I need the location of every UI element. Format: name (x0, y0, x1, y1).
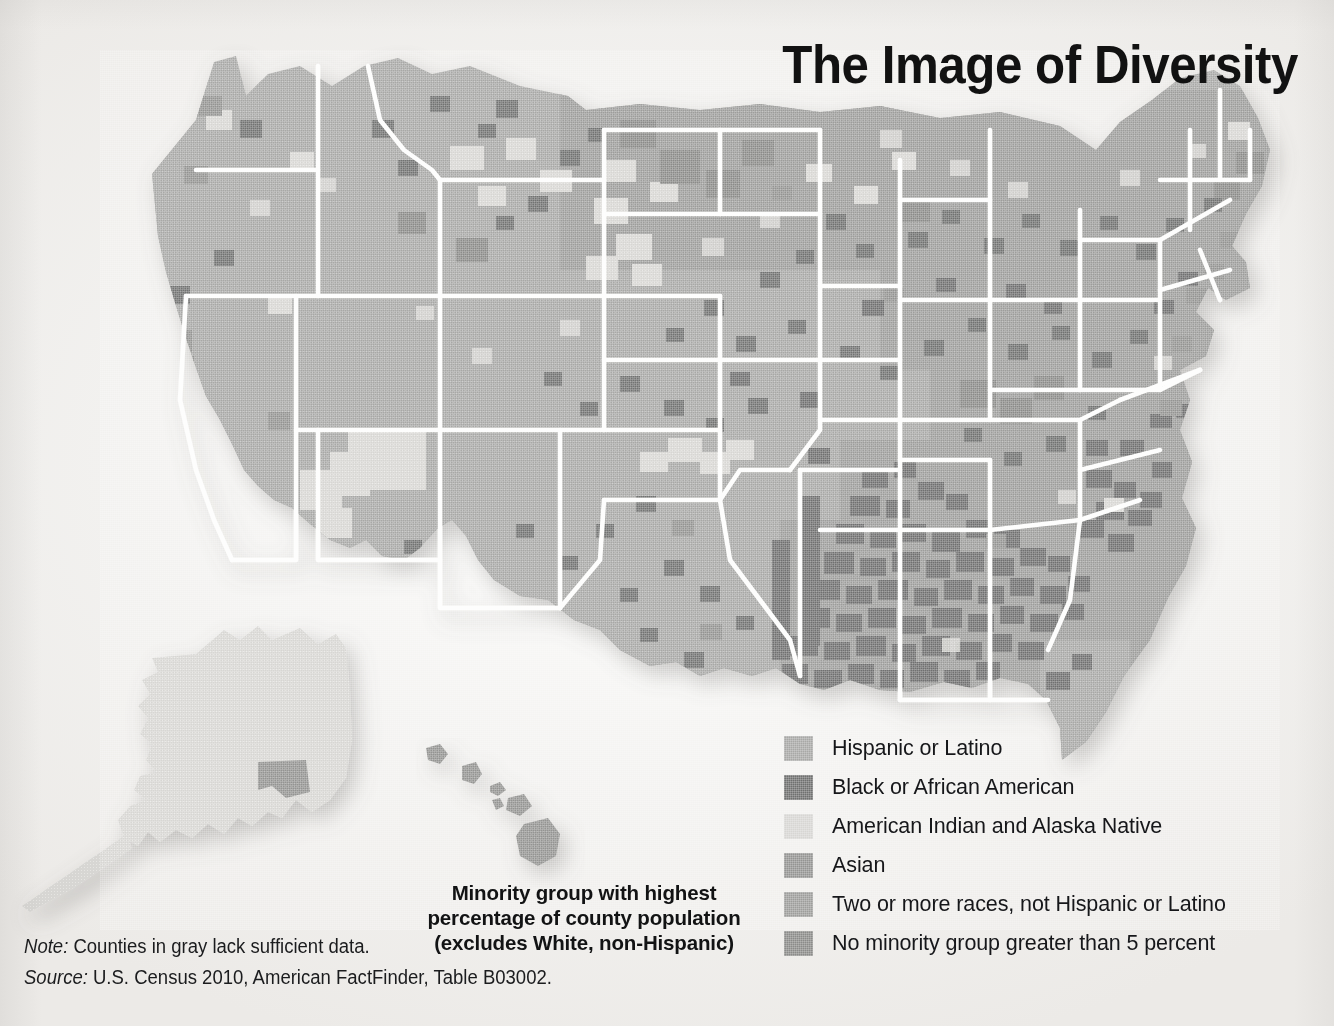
footnote-source: Source: U.S. Census 2010, American FactF… (24, 962, 552, 993)
legend-swatch-asian (784, 853, 813, 878)
legend-item-no-minority-group[interactable]: No minority group greater than 5 percent (784, 926, 1214, 960)
legend-label-two-or-more-races: Two or more races, not Hispanic or Latin… (832, 892, 1226, 917)
hawaii-big-island (516, 818, 560, 866)
caption-line-1: Minority group with highest (406, 880, 762, 905)
legend-item-asian[interactable]: Asian (784, 848, 1214, 882)
hawaii-inset (426, 744, 560, 866)
maui (506, 794, 532, 816)
legend-swatch-american-indian-and-alaska-native (784, 814, 813, 839)
note-label: Note: (24, 935, 68, 957)
page-title: The Image of Diversity (91, 34, 1298, 95)
legend-label-black-or-african-american: Black or African American (832, 775, 1074, 800)
kauai (426, 744, 448, 764)
alaska-inset (22, 626, 352, 912)
lanai (492, 798, 504, 810)
legend-item-american-indian-and-alaska-native[interactable]: American Indian and Alaska Native (784, 809, 1214, 843)
legend-item-two-or-more-races[interactable]: Two or more races, not Hispanic or Latin… (784, 887, 1214, 921)
molokai (490, 782, 506, 796)
legend-swatch-no-minority-group (784, 931, 813, 956)
source-label: Source: (24, 966, 88, 988)
map-legend: Hispanic or Latino Black or African Amer… (784, 731, 1214, 965)
legend-swatch-two-or-more-races (784, 892, 813, 917)
legend-label-hispanic-or-latino: Hispanic or Latino (832, 736, 1002, 761)
footnote-note: Note: Counties in gray lack sufficient d… (24, 931, 552, 962)
legend-swatch-hispanic-or-latino (784, 736, 813, 761)
note-text: Counties in gray lack sufficient data. (68, 935, 369, 957)
legend-label-american-indian-and-alaska-native: American Indian and Alaska Native (832, 814, 1162, 839)
caption-line-2: percentage of county population (406, 905, 762, 930)
oahu (462, 762, 482, 784)
source-text: U.S. Census 2010, American FactFinder, T… (88, 966, 552, 988)
legend-item-hispanic-or-latino[interactable]: Hispanic or Latino (784, 731, 1214, 765)
legend-label-no-minority-group: No minority group greater than 5 percent (832, 931, 1215, 956)
alaska-landmass (118, 626, 352, 846)
legend-swatch-black-or-african-american (784, 775, 813, 800)
legend-label-asian: Asian (832, 853, 885, 878)
aleutian-islands (22, 834, 132, 912)
legend-item-black-or-african-american[interactable]: Black or African American (784, 770, 1214, 804)
footnotes: Note: Counties in gray lack sufficient d… (24, 931, 552, 993)
map-page: The Image of Diversity Minority group wi… (0, 0, 1334, 1026)
